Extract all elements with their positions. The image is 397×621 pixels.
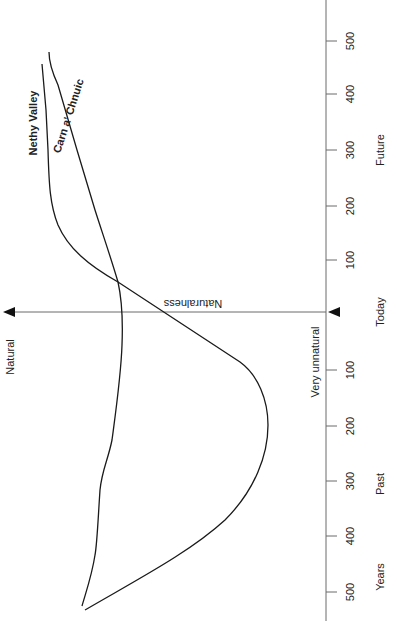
naturalness-chart: 100 200 300 400 500 100 200 300 400 500 … xyxy=(0,0,397,621)
tick-label: 100 xyxy=(344,251,356,269)
tick-label: 500 xyxy=(344,583,356,601)
today-label: Today xyxy=(374,297,386,327)
carn-a-chnuic-label: Carn a' Chnuic xyxy=(51,77,86,154)
tick-label: 200 xyxy=(344,197,356,215)
tick-label: 400 xyxy=(344,527,356,545)
future-tick-labels: 100 200 300 400 500 xyxy=(344,32,356,269)
tick-label: 300 xyxy=(344,472,356,490)
tick-label: 400 xyxy=(344,85,356,103)
today-arrow-icon xyxy=(328,307,340,317)
very-unnatural-label: Very unnatural xyxy=(309,327,321,398)
nethy-valley-label: Nethy Valley xyxy=(27,90,39,156)
tick-label: 500 xyxy=(344,32,356,50)
years-label: Years xyxy=(374,563,386,591)
tick-label: 300 xyxy=(344,141,356,159)
tick-label: 100 xyxy=(344,361,356,379)
tick-label: 200 xyxy=(344,417,356,435)
naturalness-label: Naturalness xyxy=(163,298,222,310)
past-ticks xyxy=(326,370,337,592)
past-tick-labels: 100 200 300 400 500 xyxy=(344,361,356,601)
future-ticks xyxy=(326,41,337,260)
future-label: Future xyxy=(374,134,386,166)
natural-label: Natural xyxy=(4,339,16,374)
past-label: Past xyxy=(374,473,386,495)
natural-arrow-icon xyxy=(3,307,15,317)
